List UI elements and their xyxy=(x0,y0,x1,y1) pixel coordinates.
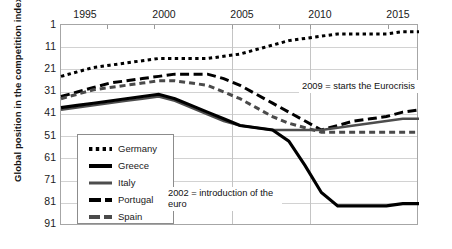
y-tick-71: 71 xyxy=(22,174,56,184)
y-axis-title: Global position in the competition index xyxy=(12,0,23,195)
y-tick-1: 1 xyxy=(22,19,56,29)
competition-index-chart: Global position in the competition index… xyxy=(0,0,452,249)
legend-label-italy: Italy xyxy=(118,178,135,188)
y-tick-51: 51 xyxy=(22,130,56,140)
y-tick-21: 21 xyxy=(22,63,56,73)
y-tick-41: 41 xyxy=(22,107,56,117)
x-tick-2000: 2000 xyxy=(134,8,194,20)
y-tick-61: 61 xyxy=(22,152,56,162)
legend-swatch-greece-icon xyxy=(89,161,112,171)
legend-swatch-italy-icon xyxy=(89,178,112,188)
legend-item-spain: Spain xyxy=(78,208,173,225)
annotation-euro-introduction: 2002 = introduction of the euro xyxy=(166,187,282,211)
x-tick-2015: 2015 xyxy=(368,8,428,20)
x-tick-2010: 2010 xyxy=(290,8,350,20)
y-tick-91: 91 xyxy=(22,218,56,228)
legend-label-portugal: Portugal xyxy=(118,195,153,205)
legend-swatch-portugal-icon xyxy=(89,195,112,205)
x-tick-1995: 1995 xyxy=(55,8,115,20)
legend-swatch-spain-icon xyxy=(89,212,112,222)
plot-area: Germany Greece Italy Portugal xyxy=(60,24,418,225)
legend-label-germany: Germany xyxy=(118,144,157,154)
series-line-germany xyxy=(61,32,419,77)
legend-item-italy: Italy xyxy=(78,174,173,191)
legend-item-germany: Germany xyxy=(78,140,173,157)
legend-label-greece: Greece xyxy=(118,161,149,171)
legend-label-spain: Spain xyxy=(118,212,142,222)
legend-item-greece: Greece xyxy=(78,157,173,174)
x-tick-2005: 2005 xyxy=(212,8,272,20)
legend-item-portugal: Portugal xyxy=(78,191,173,208)
y-tick-11: 11 xyxy=(22,41,56,51)
y-axis-tick-labels: 1 11 21 31 41 51 61 71 81 91 xyxy=(22,0,56,249)
annotation-eurocrisis: 2009 = starts the Eurocrisis xyxy=(299,80,418,93)
y-tick-31: 31 xyxy=(22,85,56,95)
y-tick-81: 81 xyxy=(22,196,56,206)
legend: Germany Greece Italy Portugal xyxy=(77,134,174,224)
legend-swatch-germany-icon xyxy=(89,144,112,154)
